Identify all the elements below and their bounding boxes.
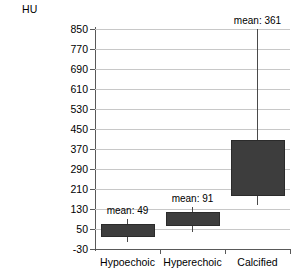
y-axis-tick-label: 690 [44, 63, 88, 75]
y-axis-tick-mark [90, 209, 95, 210]
x-axis-category-label: Calcified [237, 256, 277, 268]
y-axis-tick-mark [90, 89, 95, 90]
y-axis-tick-mark [90, 109, 95, 110]
y-axis-tick-label: 50 [44, 223, 88, 235]
y-axis-tick-mark [90, 229, 95, 230]
y-axis-tick-mark [90, 129, 95, 130]
box-plot-chart: HU 85077069061053045037029021013050-30 m… [0, 0, 296, 277]
box-plot-series[interactable]: mean: 361 [231, 29, 285, 249]
y-axis-tick-label: 530 [44, 103, 88, 115]
y-axis-tick-mark [90, 169, 95, 170]
y-axis-tick-label: -30 [44, 243, 88, 255]
y-axis-tick-label: 370 [44, 143, 88, 155]
x-axis-tick-mark [160, 249, 161, 254]
y-axis-tick-mark [90, 29, 95, 30]
y-axis-tick-label: 770 [44, 43, 88, 55]
y-axis-tick-label: 850 [44, 23, 88, 35]
y-axis-tick-mark [90, 69, 95, 70]
plot-area: mean: 49mean: 91mean: 361 [95, 29, 290, 249]
y-axis-tick-mark [90, 189, 95, 190]
y-axis-tick-label: 610 [44, 83, 88, 95]
y-axis-tick-label: 130 [44, 203, 88, 215]
mean-label: mean: 49 [107, 205, 149, 216]
x-axis-line [95, 249, 291, 250]
y-axis-tick-mark [90, 249, 95, 250]
y-axis-tick-labels: 85077069061053045037029021013050-30 [0, 0, 88, 277]
box-plot-series[interactable]: mean: 49 [101, 29, 155, 249]
y-axis-tick-mark [90, 49, 95, 50]
y-axis-tick-label: 210 [44, 183, 88, 195]
x-axis-category-label: Hyperechoic [163, 256, 221, 268]
box[interactable] [166, 212, 220, 226]
mean-label: mean: 361 [234, 15, 281, 26]
x-axis-tick-mark [290, 249, 291, 254]
box[interactable] [231, 140, 285, 196]
x-axis-category-label: Hypoechoic [100, 256, 155, 268]
y-axis-tick-label: 290 [44, 163, 88, 175]
x-axis-tick-mark [225, 249, 226, 254]
mean-label: mean: 91 [172, 193, 214, 204]
y-axis-tick-label: 450 [44, 123, 88, 135]
box[interactable] [101, 224, 155, 237]
y-axis-tick-mark [90, 149, 95, 150]
box-plot-series[interactable]: mean: 91 [166, 29, 220, 249]
